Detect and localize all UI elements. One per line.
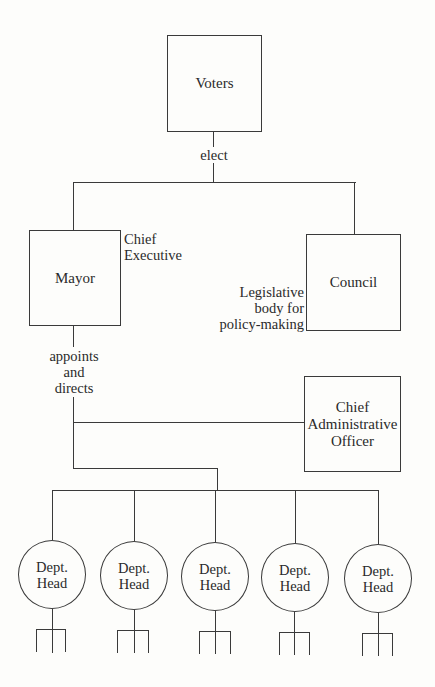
dept-drop-line xyxy=(134,490,135,541)
mayor-label: Mayor xyxy=(55,270,95,287)
dept-head-label: Dept. xyxy=(279,562,311,578)
appoints-and-directs-label: appoints and directs xyxy=(43,348,105,396)
dept-head-label: Dept. xyxy=(362,563,394,579)
voters-label: Voters xyxy=(195,75,233,92)
dept-drop-line xyxy=(215,490,216,542)
dept-jog-line xyxy=(73,468,218,469)
dept-head-label: Head xyxy=(200,577,231,593)
dept-head-circle: Dept. Head xyxy=(100,541,168,610)
mayor-drop-line xyxy=(73,182,74,230)
dept-head-label: Dept. xyxy=(199,561,231,577)
elect-branch-line xyxy=(73,182,356,183)
dept-head-label: Dept. xyxy=(36,559,68,575)
dept-head-label: Dept. xyxy=(118,560,150,576)
legislative-body-annotation: Legislative body for policy-making xyxy=(200,284,304,332)
dept-head-label: Head xyxy=(37,575,68,591)
elect-label: elect xyxy=(193,147,235,163)
council-drop-line xyxy=(354,182,355,234)
dept-head-label: Head xyxy=(280,578,311,594)
dept-drop-line xyxy=(52,490,53,540)
dept-head-circle: Dept. Head xyxy=(261,543,329,612)
dept-drop-line xyxy=(378,490,379,544)
mayor-lower-stem-line xyxy=(73,397,74,469)
mayor-stem-line xyxy=(73,325,74,347)
org-chart-diagram: Voters elect Mayor Chief Executive Counc… xyxy=(0,0,435,687)
chief-executive-annotation: Chief Executive xyxy=(124,231,204,263)
council-box: Council xyxy=(306,234,401,331)
cao-label: Chief Administrative Officer xyxy=(308,399,398,450)
dept-head-label: Head xyxy=(363,579,394,595)
dept-head-circle: Dept. Head xyxy=(344,544,412,613)
dept-head-label: Head xyxy=(119,576,150,592)
council-label: Council xyxy=(330,274,378,291)
cao-connector-line xyxy=(73,422,305,423)
dept-jog-drop-line xyxy=(217,468,218,491)
dept-head-circle: Dept. Head xyxy=(181,542,249,611)
voters-box: Voters xyxy=(167,35,262,132)
dept-head-circle: Dept. Head xyxy=(18,540,86,609)
dept-drop-line xyxy=(295,490,296,543)
cao-box: Chief Administrative Officer xyxy=(304,376,401,472)
mayor-box: Mayor xyxy=(29,230,121,326)
